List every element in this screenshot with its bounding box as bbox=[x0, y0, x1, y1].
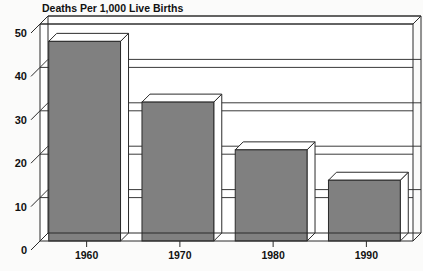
bar-1960 bbox=[49, 33, 129, 241]
bar-chart: 01020304050 bbox=[0, 0, 423, 271]
x-axis-tick-labels: 1960197019801990 bbox=[75, 249, 378, 261]
x-axis-tick-label: 1970 bbox=[168, 249, 192, 261]
y-axis-tick-label: 20 bbox=[15, 157, 27, 169]
x-axis-ticks bbox=[87, 241, 367, 247]
y-axis-tick-labels: 01020304050 bbox=[15, 27, 27, 256]
x-axis-tick-label: 1980 bbox=[261, 249, 285, 261]
y-axis-ticks bbox=[31, 24, 40, 250]
bar-1970 bbox=[142, 94, 222, 241]
y-axis-tick-label: 30 bbox=[15, 114, 27, 126]
y-axis-tick-label: 40 bbox=[15, 70, 27, 82]
chart-canvas: 01020304050 bbox=[0, 0, 423, 271]
y-axis-tick-label: 50 bbox=[15, 27, 27, 39]
y-axis-tick-label: 10 bbox=[15, 201, 27, 213]
bar-1980 bbox=[235, 142, 315, 241]
x-axis-tick-label: 1990 bbox=[355, 249, 379, 261]
chart-title: Deaths Per 1,000 Live Births bbox=[42, 2, 183, 14]
bar-1990 bbox=[328, 172, 408, 241]
y-axis-tick-label: 0 bbox=[21, 244, 27, 256]
x-axis-tick-label: 1960 bbox=[75, 249, 99, 261]
